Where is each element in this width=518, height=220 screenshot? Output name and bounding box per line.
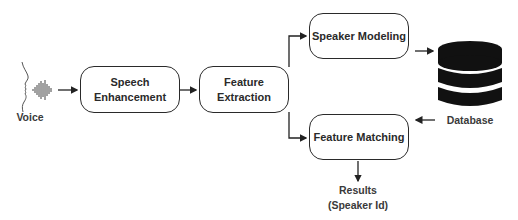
- face-profile-icon: [22, 62, 28, 112]
- node-label-line2: Enhancement: [94, 90, 166, 105]
- edge-extraction-to-matching: [289, 112, 306, 138]
- voice-wave-icon: [33, 80, 51, 100]
- node-speech-enhancement: Speech Enhancement: [80, 66, 180, 113]
- node-label: Speaker Modeling: [312, 29, 406, 44]
- node-label-line1: Feature: [217, 75, 271, 90]
- node-label-line2: Extraction: [217, 90, 271, 105]
- database-icon: [438, 41, 502, 106]
- edge-extraction-to-modeling: [289, 36, 306, 67]
- results-line2: (Speaker Id): [318, 198, 398, 213]
- results-line1: Results: [318, 183, 398, 198]
- node-feature-matching: Feature Matching: [309, 114, 409, 160]
- node-label: Feature Matching: [313, 130, 404, 145]
- node-label-line1: Speech: [94, 75, 166, 90]
- node-speaker-modeling: Speaker Modeling: [309, 13, 409, 59]
- database-label: Database: [440, 113, 500, 128]
- voice-label: Voice: [10, 110, 50, 125]
- node-feature-extraction: Feature Extraction: [199, 66, 289, 113]
- results-label: Results (Speaker Id): [318, 183, 398, 213]
